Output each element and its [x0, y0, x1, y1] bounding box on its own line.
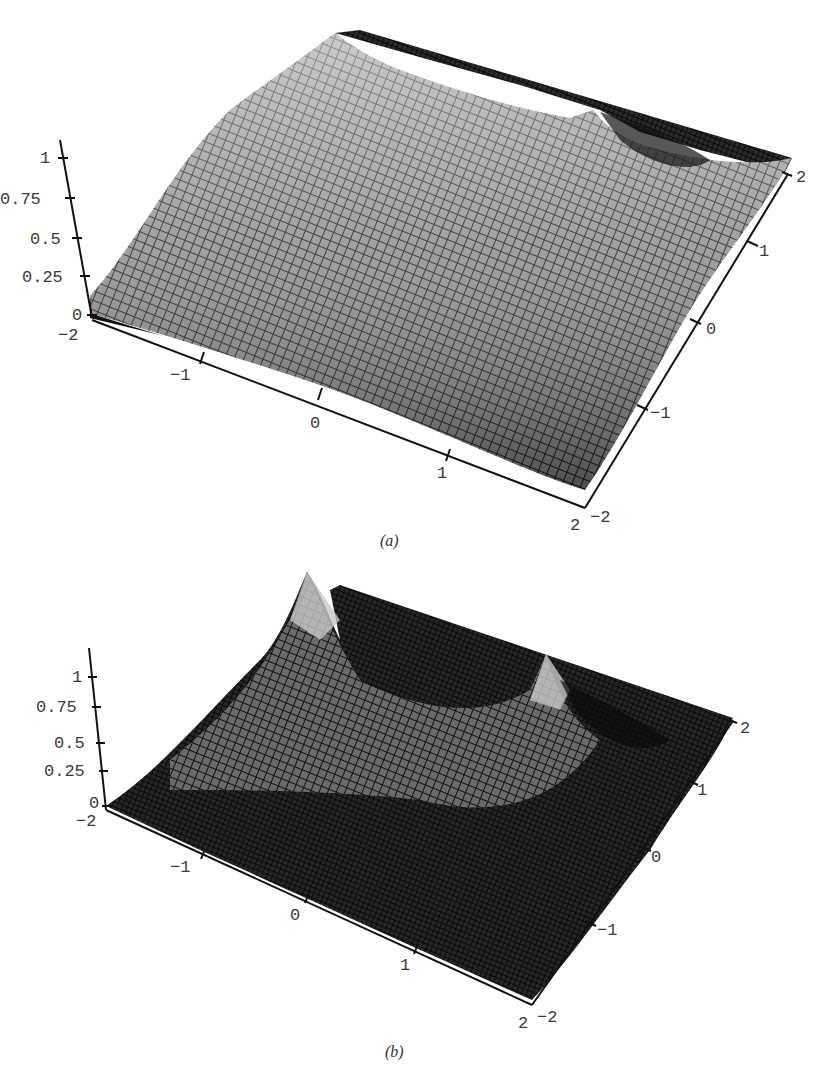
svg-text:1: 1	[759, 242, 769, 261]
surface-plot-b-canvas: 1 0.75 0.5 0.25 0 −2 −1 0 1 2 −2 −1 0 1 …	[0, 540, 837, 1077]
z-axis-a	[58, 140, 97, 318]
surface-mesh-b	[106, 572, 733, 1000]
svg-text:0.25: 0.25	[22, 268, 63, 287]
svg-text:−1: −1	[170, 858, 190, 877]
svg-text:−2: −2	[76, 812, 96, 831]
svg-text:0: 0	[89, 794, 99, 813]
svg-text:−1: −1	[597, 921, 617, 940]
z-axis-b	[88, 648, 111, 810]
surface-plot-a: 1 0.75 0.5 0.25 0 −2 −1 0 1 2 −2 −1 0 1 …	[0, 0, 837, 530]
svg-text:−2: −2	[537, 1008, 557, 1027]
caption-b: (b)	[385, 1043, 404, 1061]
svg-text:1: 1	[400, 956, 410, 975]
surface-plot-b: 1 0.75 0.5 0.25 0 −2 −1 0 1 2 −2 −1 0 1 …	[0, 540, 837, 1077]
svg-text:0: 0	[651, 848, 661, 867]
svg-text:0.75: 0.75	[0, 190, 41, 209]
svg-text:0.5: 0.5	[30, 230, 61, 249]
svg-text:−1: −1	[170, 366, 190, 385]
svg-text:2: 2	[570, 516, 580, 530]
svg-text:0: 0	[706, 320, 716, 339]
svg-text:2: 2	[740, 719, 750, 738]
svg-text:1: 1	[40, 149, 50, 168]
svg-text:2: 2	[796, 168, 806, 187]
svg-text:−2: −2	[590, 508, 610, 527]
surface-mesh-a	[90, 30, 792, 490]
svg-text:0.5: 0.5	[54, 734, 85, 753]
svg-text:0: 0	[310, 414, 320, 433]
svg-text:0.75: 0.75	[36, 698, 77, 717]
surface-plot-a-canvas: 1 0.75 0.5 0.25 0 −2 −1 0 1 2 −2 −1 0 1 …	[0, 0, 837, 530]
svg-text:0: 0	[290, 906, 300, 925]
svg-text:1: 1	[437, 464, 447, 483]
z-tick-labels-b: 1 0.75 0.5 0.25 0	[36, 668, 99, 813]
svg-text:1: 1	[72, 668, 82, 687]
z-tick-labels-a: 1 0.75 0.5 0.25 0	[0, 149, 82, 325]
svg-text:−2: −2	[58, 326, 78, 345]
svg-text:0.25: 0.25	[44, 762, 85, 781]
svg-text:1: 1	[697, 781, 707, 800]
svg-text:2: 2	[518, 1014, 528, 1033]
svg-text:0: 0	[72, 306, 82, 325]
svg-text:−1: −1	[650, 404, 670, 423]
